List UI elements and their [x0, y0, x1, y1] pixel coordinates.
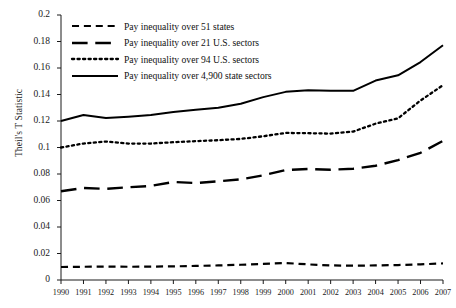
legend-item-4: Pay inequality over 4,900 state sectors [72, 68, 332, 85]
legend-label: Pay inequality over 94 U.S. sectors [124, 54, 259, 65]
legend-item-1: Pay inequality over 51 states [72, 18, 332, 35]
chart-legend: Pay inequality over 51 statesPay inequal… [72, 18, 332, 84]
chart-container: Theil's T Statistic 00.020.040.060.080.1… [0, 0, 456, 308]
legend-label: Pay inequality over 51 states [124, 21, 234, 32]
legend-label: Pay inequality over 4,900 state sectors [124, 70, 272, 81]
legend-item-3: Pay inequality over 94 U.S. sectors [72, 51, 332, 68]
legend-line-swatch [72, 53, 118, 65]
x-axis-tick-label: 2007 [428, 288, 456, 297]
legend-line-swatch [72, 37, 118, 49]
legend-line-swatch [72, 70, 118, 82]
legend-item-2: Pay inequality over 21 U.S. sectors [72, 35, 332, 52]
legend-line-swatch [72, 20, 118, 32]
legend-label: Pay inequality over 21 U.S. sectors [124, 37, 259, 48]
